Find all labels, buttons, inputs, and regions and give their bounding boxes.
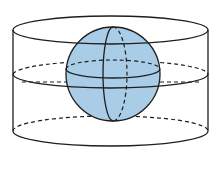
sphere-in-cylinder-diagram [0,0,223,172]
water-plane-back-left [13,63,66,75]
water-plane-back-right [160,63,208,75]
sphere [66,27,160,121]
cylinder-bottom-front-arc [13,131,208,146]
